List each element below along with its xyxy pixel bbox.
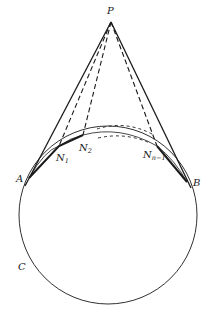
label-p: P xyxy=(106,5,114,16)
circle-c xyxy=(19,126,197,304)
label-a: A xyxy=(15,173,23,184)
polygon-path-right xyxy=(157,146,187,182)
dashed-line-p-n2 xyxy=(83,22,111,135)
dotted-arc-upper xyxy=(97,125,152,134)
tangent-cone-diagram: P A B C N1 N2 Nn−1 xyxy=(0,0,213,316)
dotted-arc-lower xyxy=(98,136,150,143)
tangent-line-pb xyxy=(111,22,191,188)
label-n1: N1 xyxy=(55,152,69,165)
label-b: B xyxy=(192,177,200,188)
label-n2: N2 xyxy=(78,142,92,155)
label-c: C xyxy=(18,261,26,272)
